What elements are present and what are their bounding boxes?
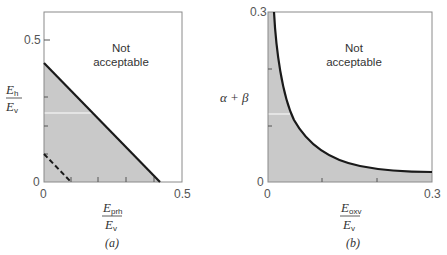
y-tick-label-0-b: 0 [257, 175, 264, 189]
y-axis-label-a: Eh Ev [5, 82, 22, 115]
panel-b: 0.3 0 0 0.3 Not acceptable α + β Eoxv Ev… [220, 5, 441, 250]
svg-text:Eprh: Eprh [102, 200, 123, 216]
not-acceptable-label-a-line1: Not [112, 42, 131, 54]
y-tick-label-0.5-a: 0.5 [24, 33, 41, 47]
x-tick-label-0-b: 0 [264, 187, 271, 201]
svg-text:Ev: Ev [5, 99, 18, 115]
caption-a: (a) [105, 236, 119, 250]
not-acceptable-label-a-line2: acceptable [93, 56, 149, 68]
y-tick-label-0.3-b: 0.3 [250, 5, 267, 19]
figure: 0.5 0 0 0.5 Not acceptable Eh Ev Eprh Ev… [0, 0, 447, 255]
svg-text:Ev: Ev [342, 217, 355, 233]
y-tick-label-0-a: 0 [33, 175, 40, 189]
x-tick-label-0-a: 0 [40, 187, 47, 201]
not-acceptable-label-b-line1: Not [345, 42, 364, 54]
not-acceptable-label-b-line2: acceptable [326, 56, 382, 68]
y-axis-label-b: α + β [220, 90, 249, 105]
x-tick-label-0.5-a: 0.5 [174, 187, 191, 201]
x-axis-label-b: Eoxv Ev [340, 200, 361, 233]
x-tick-label-0.3-b: 0.3 [424, 187, 441, 201]
svg-text:Eh: Eh [5, 82, 18, 98]
x-axis-label-a: Eprh Ev [102, 200, 123, 233]
caption-b: (b) [346, 236, 360, 250]
panel-a: 0.5 0 0 0.5 Not acceptable Eh Ev Eprh Ev… [5, 12, 191, 250]
svg-text:Eoxv: Eoxv [340, 200, 361, 216]
acceptable-region-b [268, 12, 432, 182]
svg-text:Ev: Ev [104, 217, 117, 233]
